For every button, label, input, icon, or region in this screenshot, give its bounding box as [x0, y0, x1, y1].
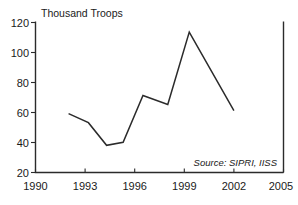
troops-line-chart: Thousand Troops 120 100 80 60 40 20: [0, 0, 298, 205]
y-tick-label: 60: [17, 107, 29, 119]
x-tick-label: 1996: [122, 180, 146, 192]
x-tick-label: 1993: [73, 180, 97, 192]
y-tick-label: 40: [17, 137, 29, 149]
x-tick-label: 1990: [23, 180, 47, 192]
y-axis-tick-labels: 120 100 80 60 40 20: [11, 17, 29, 179]
source-annotation: Source: SIPRI, IISS: [194, 157, 278, 168]
axis-frame: [36, 22, 284, 173]
y-tick-label: 80: [17, 77, 29, 89]
y-tick-label: 120: [11, 17, 29, 29]
x-tick-label: 1999: [172, 180, 196, 192]
troops-series-line: [69, 32, 234, 145]
y-tick-label: 100: [11, 47, 29, 59]
y-tick-label: 20: [17, 167, 29, 179]
x-axis-tick-labels: 1990 1993 1996 1999 2002 2005: [23, 180, 293, 192]
chart-figure: Thousand Troops 120 100 80 60 40 20: [0, 0, 298, 205]
y-axis-title: Thousand Troops: [41, 7, 123, 19]
x-tick-label: 2002: [222, 180, 246, 192]
x-tick-label: 2005: [269, 180, 293, 192]
